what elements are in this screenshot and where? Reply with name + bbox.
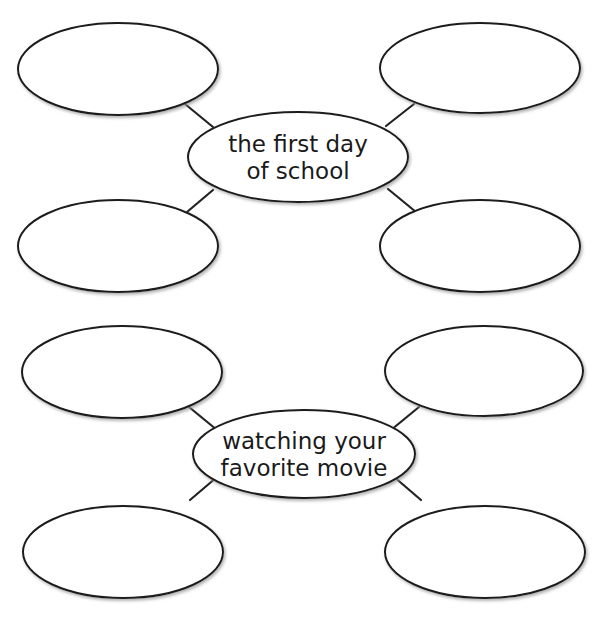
connector-line bbox=[386, 104, 414, 126]
connector-line bbox=[187, 190, 213, 212]
bubble-map-canvas: the first dayof school watching yourfavo… bbox=[0, 0, 603, 618]
center-topic-line-1: watching your bbox=[222, 428, 386, 454]
answer-bubble-top-left[interactable] bbox=[22, 326, 222, 418]
bubble-shape bbox=[22, 326, 222, 418]
bubble-map-watching-favorite-movie: watching yourfavorite movie bbox=[22, 326, 585, 598]
answer-bubble-bottom-left[interactable] bbox=[23, 506, 223, 598]
bubble-shape bbox=[385, 326, 583, 416]
bubble-shape bbox=[23, 506, 223, 598]
center-topic-line-2: favorite movie bbox=[221, 455, 388, 481]
answer-bubble-bottom-right[interactable] bbox=[380, 200, 580, 292]
bubble-shape bbox=[380, 23, 580, 113]
center-bubble: watching yourfavorite movie bbox=[193, 410, 415, 498]
center-topic-line-1: the first day bbox=[228, 131, 368, 157]
bubble-shape bbox=[385, 506, 585, 598]
connector-line bbox=[189, 407, 217, 430]
answer-bubble-bottom-left[interactable] bbox=[18, 200, 218, 292]
bubble-shape bbox=[18, 200, 218, 292]
answer-bubble-top-right[interactable] bbox=[385, 326, 583, 416]
bubble-shape bbox=[380, 200, 580, 292]
center-bubble: the first dayof school bbox=[188, 112, 408, 202]
connector-line bbox=[185, 104, 213, 127]
connector-line bbox=[391, 407, 419, 430]
connector-line bbox=[388, 189, 416, 212]
bubble-map-first-day-of-school: the first dayof school bbox=[18, 23, 580, 292]
answer-bubble-top-right[interactable] bbox=[380, 23, 580, 113]
answer-bubble-bottom-right[interactable] bbox=[385, 506, 585, 598]
bubble-shape bbox=[18, 23, 218, 115]
connector-line bbox=[190, 477, 217, 500]
answer-bubble-top-left[interactable] bbox=[18, 23, 218, 115]
center-topic-line-2: of school bbox=[246, 158, 349, 184]
connector-line bbox=[393, 476, 421, 500]
